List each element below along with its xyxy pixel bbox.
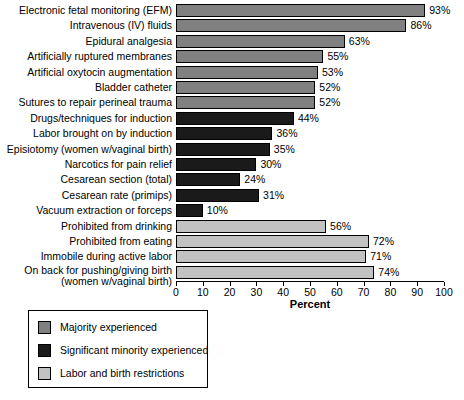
horizontal-bar-chart: Electronic fetal monitoring (EFM)Intrave… <box>0 0 464 400</box>
x-axis-tick-label: 60 <box>322 286 352 298</box>
bar-value-label: 72% <box>373 235 394 248</box>
x-axis-tick-label: 40 <box>268 286 298 298</box>
bar-value-label: 24% <box>244 173 265 186</box>
bar-value-label: 71% <box>370 250 391 263</box>
x-axis-tick-label: 50 <box>295 286 325 298</box>
bar <box>176 173 240 186</box>
category-label: Narcotics for pain relief <box>65 159 172 170</box>
category-label: Artificially ruptured membranes <box>27 51 172 62</box>
category-label: Prohibited from eating <box>69 236 172 247</box>
bar-value-label: 74% <box>378 266 399 279</box>
legend-swatch <box>38 367 51 380</box>
x-axis-tick-label: 70 <box>349 286 379 298</box>
plot-area: 93%86%63%55%53%52%52%44%36%35%30%24%31%1… <box>176 0 444 282</box>
category-label: Cesarean section (total) <box>61 174 172 185</box>
bar-value-label: 52% <box>319 96 340 109</box>
bar <box>176 4 425 17</box>
bar <box>176 250 366 263</box>
bar <box>176 189 259 202</box>
bar <box>176 204 203 217</box>
bar-value-label: 44% <box>298 112 319 125</box>
x-axis-tick-label: 100 <box>429 286 459 298</box>
category-label: Episiotomy (women w/vaginal birth) <box>7 144 172 155</box>
category-label: Immobile during active labor <box>41 251 172 262</box>
x-axis-tick-label: 10 <box>188 286 218 298</box>
x-axis-tick-label: 20 <box>215 286 245 298</box>
legend-swatch <box>38 321 51 334</box>
bar-value-label: 31% <box>263 189 284 202</box>
chart-legend: Majority experiencedSignificant minority… <box>28 310 208 388</box>
category-label: On back for pushing/giving birth(women w… <box>24 265 172 287</box>
x-axis-tick-label: 30 <box>241 286 271 298</box>
category-label: Epidural analgesia <box>86 36 172 47</box>
category-label: Electronic fetal monitoring (EFM) <box>19 5 172 16</box>
legend-label: Majority experienced <box>60 321 157 334</box>
category-label: Intravenous (IV) fluids <box>70 20 172 31</box>
legend-label: Significant minority experienced <box>60 344 208 357</box>
bar-value-label: 35% <box>274 143 295 156</box>
bar <box>176 19 406 32</box>
bar-value-label: 63% <box>349 35 370 48</box>
bar <box>176 81 315 94</box>
category-label: Artificial oxytocin augmentation <box>27 67 172 78</box>
bar <box>176 235 369 248</box>
category-label: Bladder catheter <box>95 82 172 93</box>
x-axis-tick-label: 80 <box>375 286 405 298</box>
category-label: Sutures to repair perineal trauma <box>19 97 173 108</box>
bar-value-label: 52% <box>319 81 340 94</box>
bar <box>176 127 272 140</box>
category-label: Cesarean rate (primips) <box>62 190 172 201</box>
bar <box>176 35 345 48</box>
bar-value-label: 56% <box>330 220 351 233</box>
bar-value-label: 36% <box>276 127 297 140</box>
category-label: Drugs/techniques for induction <box>30 113 172 124</box>
x-axis-tick-label: 0 <box>161 286 191 298</box>
legend-swatch <box>38 344 51 357</box>
bar <box>176 96 315 109</box>
bar-value-label: 10% <box>207 204 228 217</box>
x-axis-title: Percent <box>176 298 444 310</box>
x-axis-tick-label: 90 <box>402 286 432 298</box>
bar <box>176 143 270 156</box>
category-label-line: On back for pushing/giving birth <box>24 264 172 276</box>
bar-value-label: 86% <box>410 19 431 32</box>
bar <box>176 50 323 63</box>
category-label: Vacuum extraction or forceps <box>36 205 172 216</box>
legend-label: Labor and birth restrictions <box>60 367 184 380</box>
bar <box>176 266 374 279</box>
bar-value-label: 55% <box>327 50 348 63</box>
bar-value-label: 30% <box>260 158 281 171</box>
bar-value-label: 93% <box>429 4 450 17</box>
bar <box>176 66 318 79</box>
category-label: Labor brought on by induction <box>33 128 172 139</box>
bar <box>176 158 256 171</box>
bar <box>176 112 294 125</box>
bar-value-label: 53% <box>322 66 343 79</box>
category-label: Prohibited from drinking <box>61 221 172 232</box>
bar <box>176 220 326 233</box>
category-label-line: (women w/vaginal birth) <box>24 276 172 287</box>
